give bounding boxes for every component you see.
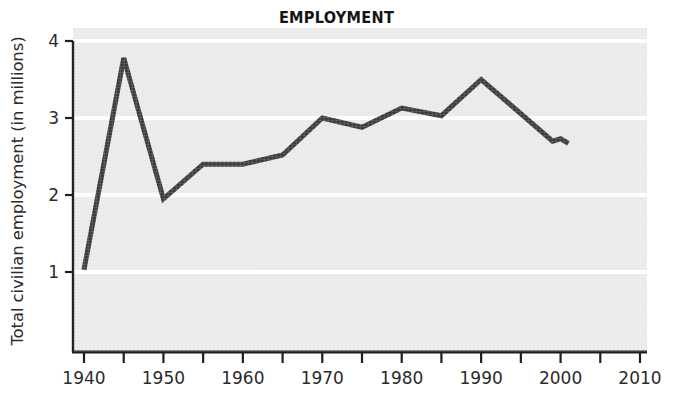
x-tick-label: 1950: [142, 368, 185, 388]
x-tick-label: 1970: [301, 368, 344, 388]
y-tick-label: 1: [48, 262, 59, 282]
y-axis-ticks: 1234: [48, 31, 73, 282]
x-axis-ticks: 19401950196019701980199020002010: [62, 352, 661, 388]
y-tick-label: 4: [48, 31, 59, 51]
line-chart-plot: 1234 19401950196019701980199020002010: [0, 0, 673, 404]
y-tick-label: 3: [48, 108, 59, 128]
x-tick-label: 1980: [380, 368, 423, 388]
chart-figure: EMPLOYMENT Total civilian employment (in…: [0, 0, 673, 404]
y-tick-label: 2: [48, 185, 59, 205]
x-tick-label: 1960: [221, 368, 264, 388]
x-tick-label: 1990: [460, 368, 503, 388]
x-tick-label: 1940: [62, 368, 105, 388]
x-tick-label: 2010: [618, 368, 661, 388]
x-tick-label: 2000: [539, 368, 582, 388]
